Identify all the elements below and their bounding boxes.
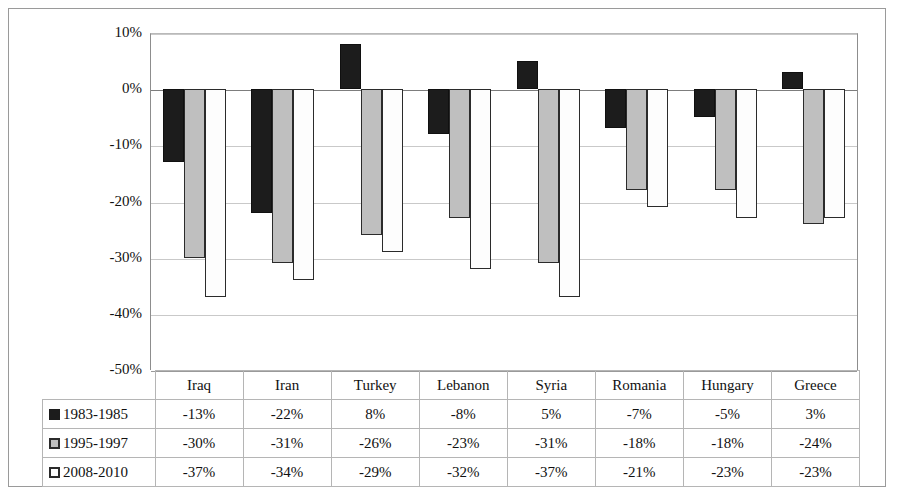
bar xyxy=(694,89,715,117)
y-axis-tick-label: 0% xyxy=(2,81,142,96)
table-cell-value: -31% xyxy=(243,429,331,458)
bar xyxy=(517,61,538,89)
bar xyxy=(382,89,403,252)
table-cell-value: -21% xyxy=(595,458,683,487)
table-cell-value: -32% xyxy=(419,458,507,487)
table-cell-value: -34% xyxy=(243,458,331,487)
column-header-lebanon: Lebanon xyxy=(419,371,507,400)
legend-label: 1983-1985 xyxy=(63,406,128,422)
legend-entry: 2008-2010 xyxy=(43,458,156,487)
table-cell-value: -23% xyxy=(683,458,771,487)
data-table: IraqIranTurkeyLebanonSyriaRomaniaHungary… xyxy=(42,370,860,487)
bar-group xyxy=(770,33,859,370)
bar xyxy=(251,89,272,213)
column-header-hungary: Hungary xyxy=(683,371,771,400)
y-axis-tick-label: -10% xyxy=(2,137,142,152)
bar-group xyxy=(416,33,505,370)
bar-group xyxy=(150,33,239,370)
bar xyxy=(824,89,845,218)
y-axis-tick-label: 10% xyxy=(2,25,142,40)
gray-square-icon xyxy=(49,438,60,449)
bar xyxy=(736,89,757,218)
table-cell-value: -18% xyxy=(595,429,683,458)
bar-group xyxy=(681,33,770,370)
bar xyxy=(470,89,491,269)
legend-label: 2008-2010 xyxy=(63,464,128,480)
table-cell-value: -18% xyxy=(683,429,771,458)
legend-entry: 1983-1985 xyxy=(43,400,156,429)
table-header-row: IraqIranTurkeyLebanonSyriaRomaniaHungary… xyxy=(43,371,860,400)
table-cell-value: -37% xyxy=(155,458,243,487)
table-cell-value: -26% xyxy=(331,429,419,458)
bar xyxy=(605,89,626,128)
bar xyxy=(205,89,226,297)
table-cell-value: -29% xyxy=(331,458,419,487)
legend-label: 1995-1997 xyxy=(63,435,128,451)
y-axis-labels: 10%0%-10%-20%-30%-40%-50% xyxy=(0,33,142,370)
bar xyxy=(449,89,470,218)
column-header-greece: Greece xyxy=(771,371,859,400)
table-cell-value: -22% xyxy=(243,400,331,429)
table-cell-value: 3% xyxy=(771,400,859,429)
white-square-icon xyxy=(49,467,60,478)
bar-group xyxy=(504,33,593,370)
bar xyxy=(559,89,580,297)
table-cell-value: 5% xyxy=(507,400,595,429)
column-header-iraq: Iraq xyxy=(155,371,243,400)
column-header-iran: Iran xyxy=(243,371,331,400)
bar xyxy=(163,89,184,162)
bar xyxy=(803,89,824,224)
column-header-syria: Syria xyxy=(507,371,595,400)
table-cell-value: -30% xyxy=(155,429,243,458)
bar xyxy=(272,89,293,263)
bar-group xyxy=(593,33,682,370)
table-cell-value: -7% xyxy=(595,400,683,429)
bar xyxy=(715,89,736,190)
table-row: 1995-1997-30%-31%-26%-23%-31%-18%-18%-24… xyxy=(43,429,860,458)
legend-entry: 1995-1997 xyxy=(43,429,156,458)
bars-layer xyxy=(150,33,858,370)
y-axis-tick-label: -40% xyxy=(2,306,142,321)
table-cell-value: -23% xyxy=(419,429,507,458)
table-corner-cell xyxy=(43,371,156,400)
column-header-romania: Romania xyxy=(595,371,683,400)
bar-group xyxy=(327,33,416,370)
table-row: 2008-2010-37%-34%-29%-32%-37%-21%-23%-23… xyxy=(43,458,860,487)
table-cell-value: -5% xyxy=(683,400,771,429)
bar xyxy=(538,89,559,263)
bar xyxy=(184,89,205,258)
bar xyxy=(647,89,668,207)
table-row: 1983-1985-13%-22%8%-8%5%-7%-5%3% xyxy=(43,400,860,429)
table-cell-value: -37% xyxy=(507,458,595,487)
black-square-icon xyxy=(49,409,60,420)
bar xyxy=(782,72,803,89)
y-axis-tick-label: -30% xyxy=(2,250,142,265)
chart-page: 10%0%-10%-20%-30%-40%-50% IraqIranTurkey… xyxy=(0,0,904,494)
bar-group xyxy=(239,33,328,370)
table-cell-value: -24% xyxy=(771,429,859,458)
table-cell-value: 8% xyxy=(331,400,419,429)
table-cell-value: -31% xyxy=(507,429,595,458)
bar xyxy=(293,89,314,280)
bar xyxy=(626,89,647,190)
table-cell-value: -23% xyxy=(771,458,859,487)
bar xyxy=(361,89,382,235)
bar xyxy=(340,44,361,89)
table-cell-value: -8% xyxy=(419,400,507,429)
y-axis-tick-label: -20% xyxy=(2,194,142,209)
column-header-turkey: Turkey xyxy=(331,371,419,400)
table-cell-value: -13% xyxy=(155,400,243,429)
bar xyxy=(428,89,449,134)
